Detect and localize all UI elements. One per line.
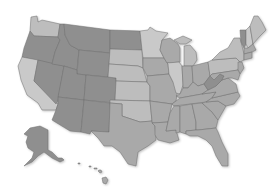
- state-me[interactable]: [250, 16, 266, 44]
- state-co[interactable]: [84, 75, 116, 103]
- state-ia[interactable]: [143, 58, 169, 76]
- state-ny[interactable]: [212, 38, 244, 62]
- state-ks[interactable]: [115, 81, 150, 101]
- us-choropleth-map: [0, 0, 279, 195]
- state-fl[interactable]: [186, 128, 228, 166]
- state-ak[interactable]: [24, 126, 64, 166]
- state-wy[interactable]: [77, 50, 110, 77]
- state-wa[interactable]: [30, 16, 60, 37]
- state-nd[interactable]: [110, 30, 142, 50]
- state-nm[interactable]: [81, 100, 110, 134]
- state-hi[interactable]: [78, 163, 108, 184]
